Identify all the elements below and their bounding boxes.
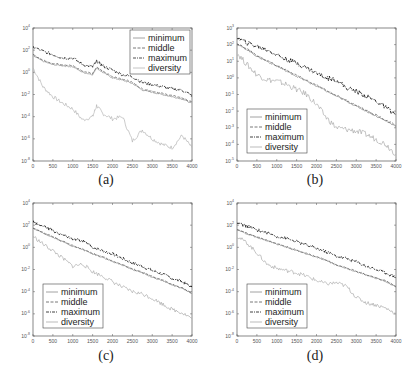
y-tick-label: 102	[226, 221, 234, 228]
y-tick-label: 10-2	[21, 266, 30, 273]
x-tick-label: 1500	[87, 338, 98, 344]
x-tick-label: 2000	[311, 163, 322, 169]
legend-label-maximum: maximum	[148, 53, 187, 63]
y-tick-label: 104	[22, 24, 30, 31]
y-tick-label: 102	[22, 221, 30, 228]
x-tick-label: 1000	[67, 163, 78, 169]
legend-c: minimummiddlemaximumdiversity	[43, 284, 103, 328]
y-tick-label: 10-2	[225, 107, 234, 114]
legend-label-diversity: diversity	[265, 142, 299, 152]
x-tick-label: 3500	[371, 338, 382, 344]
y-tick-label: 104	[226, 199, 234, 206]
plot-area-c: 0500100015002000250030003500400010410210…	[0, 190, 205, 355]
subplot-d: 0500100015002000250030003500400010410210…	[204, 190, 409, 355]
x-tick-label: 4000	[186, 338, 197, 344]
y-tick-label: 103	[226, 24, 234, 31]
y-tick-label: 10-6	[225, 310, 234, 317]
plot-area-d: 0500100015002000250030003500400010410210…	[204, 190, 409, 355]
subplot-b: 0500100015002000250030003500400010310210…	[204, 15, 409, 180]
x-tick-label: 1000	[271, 338, 282, 344]
y-tick-label: 10-8	[21, 332, 30, 339]
x-tick-label: 2500	[331, 163, 342, 169]
y-tick-label: 10-2	[225, 266, 234, 273]
y-tick-label: 100	[226, 74, 234, 81]
legend-label-minimum: minimum	[265, 112, 302, 122]
y-tick-label: 10-6	[21, 310, 30, 317]
legend-a: minimummiddlemaximumdiversity	[130, 30, 190, 74]
x-tick-label: 0	[32, 338, 35, 344]
legend-label-maximum: maximum	[61, 307, 100, 317]
x-tick-label: 3500	[167, 163, 178, 169]
x-tick-label: 3000	[351, 163, 362, 169]
x-tick-label: 2500	[331, 338, 342, 344]
cropped-caption-fragment	[0, 0, 420, 6]
subplot-label-a: (a)	[86, 172, 126, 188]
x-tick-label: 1500	[291, 163, 302, 169]
x-tick-label: 0	[32, 163, 35, 169]
legend-label-minimum: minimum	[265, 287, 302, 297]
x-tick-label: 3000	[147, 338, 158, 344]
x-tick-label: 2000	[107, 163, 118, 169]
legend-label-middle: middle	[61, 297, 88, 307]
legend-label-minimum: minimum	[148, 33, 185, 43]
y-tick-label: 10-1	[225, 91, 234, 98]
y-tick-label: 100	[22, 243, 30, 250]
legend-label-diversity: diversity	[148, 63, 182, 73]
subplot-a: 0500100015002000250030003500400010410210…	[0, 15, 205, 180]
y-tick-label: 10-4	[21, 113, 30, 120]
y-tick-label: 101	[226, 57, 234, 64]
legend-label-maximum: maximum	[265, 307, 304, 317]
x-tick-label: 2500	[127, 163, 138, 169]
y-tick-label: 100	[22, 68, 30, 75]
subplot-label-c: (c)	[86, 348, 126, 364]
x-tick-label: 0	[236, 338, 239, 344]
y-tick-label: 10-4	[21, 288, 30, 295]
x-tick-label: 0	[236, 163, 239, 169]
x-tick-label: 4000	[390, 163, 401, 169]
legend-label-middle: middle	[265, 297, 292, 307]
y-tick-label: 10-6	[21, 135, 30, 142]
legend-label-maximum: maximum	[265, 132, 304, 142]
legend-label-middle: middle	[265, 122, 292, 132]
x-tick-label: 4000	[186, 163, 197, 169]
x-tick-label: 500	[49, 163, 58, 169]
subplot-label-d: (d)	[295, 348, 335, 364]
x-tick-label: 4000	[390, 338, 401, 344]
x-tick-label: 3500	[371, 163, 382, 169]
x-tick-label: 1500	[87, 163, 98, 169]
y-tick-label: 102	[22, 46, 30, 53]
legend-label-diversity: diversity	[61, 317, 95, 327]
legend-label-middle: middle	[148, 43, 175, 53]
y-tick-label: 10-8	[225, 332, 234, 339]
legend-d: minimummiddlemaximumdiversity	[247, 284, 307, 328]
y-tick-label: 10-4	[225, 288, 234, 295]
legend-label-minimum: minimum	[61, 287, 98, 297]
x-tick-label: 2000	[107, 338, 118, 344]
x-tick-label: 3000	[147, 163, 158, 169]
y-tick-label: 100	[226, 243, 234, 250]
x-tick-label: 1500	[291, 338, 302, 344]
subplot-c: 0500100015002000250030003500400010410210…	[0, 190, 205, 355]
x-tick-label: 1000	[67, 338, 78, 344]
x-tick-label: 500	[253, 163, 262, 169]
x-tick-label: 500	[49, 338, 58, 344]
x-tick-label: 2500	[127, 338, 138, 344]
y-tick-label: 10-2	[21, 91, 30, 98]
y-tick-label: 10-4	[225, 140, 234, 147]
legend-b: minimummiddlemaximumdiversity	[247, 109, 307, 153]
x-tick-label: 3000	[351, 338, 362, 344]
x-tick-label: 3500	[167, 338, 178, 344]
y-tick-label: 102	[226, 41, 234, 48]
plot-area-b: 0500100015002000250030003500400010310210…	[204, 15, 409, 180]
y-tick-label: 10-5	[225, 157, 234, 164]
x-tick-label: 2000	[311, 338, 322, 344]
plot-area-a: 0500100015002000250030003500400010410210…	[0, 15, 205, 180]
x-tick-label: 1000	[271, 163, 282, 169]
legend-label-diversity: diversity	[265, 317, 299, 327]
y-tick-label: 10-8	[21, 157, 30, 164]
subplot-label-b: (b)	[295, 172, 335, 188]
y-tick-label: 10-3	[225, 124, 234, 131]
y-tick-label: 104	[22, 199, 30, 206]
x-tick-label: 500	[253, 338, 262, 344]
